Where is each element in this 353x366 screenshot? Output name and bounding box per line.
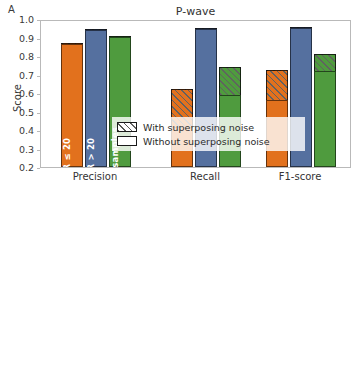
y-tick-label: 0.5: [0, 108, 34, 118]
y-tick-mark: [37, 168, 40, 169]
hatched-swatch-icon: [117, 122, 137, 132]
y-tick-label: 0.3: [0, 145, 34, 155]
y-tick-label: 0.2: [0, 163, 34, 173]
y-tick-label: 0.4: [0, 126, 34, 136]
y-tick-label: 0.8: [0, 52, 34, 62]
bar-series-label: SNR ≤ 20: [62, 138, 72, 168]
legend-item-with-noise: With superposing noise: [117, 120, 300, 134]
y-tick-label: 1.0: [0, 15, 34, 25]
panel-title: P-wave: [40, 5, 351, 18]
y-tick-label: 0.9: [0, 34, 34, 44]
empty-swatch-icon: [117, 136, 137, 146]
figure-root: AP-waveScore0.20.30.40.50.60.70.80.91.0S…: [0, 0, 353, 366]
y-tick-label: 0.7: [0, 71, 34, 81]
legend: With superposing noiseWithout superposin…: [112, 117, 305, 151]
bar-series-label: SNR > 20: [86, 138, 96, 168]
legend-label: Without superposing noise: [143, 136, 270, 147]
x-tick-label: F1-score: [250, 171, 350, 182]
legend-item-without-noise: Without superposing noise: [117, 134, 300, 148]
legend-label: With superposing noise: [143, 122, 254, 133]
bar-segment-without-noise: [314, 71, 336, 167]
bar: SNR > 20: [85, 29, 107, 167]
x-tick-label: Recall: [155, 171, 255, 182]
y-tick-label: 0.6: [0, 89, 34, 99]
bar: SNR ≤ 20: [61, 43, 83, 167]
panel-a: AP-waveScore0.20.30.40.50.60.70.80.91.0S…: [0, 0, 353, 183]
bar: [314, 54, 336, 167]
panel-letter: A: [8, 4, 15, 15]
x-tick-label: Precision: [45, 171, 145, 182]
